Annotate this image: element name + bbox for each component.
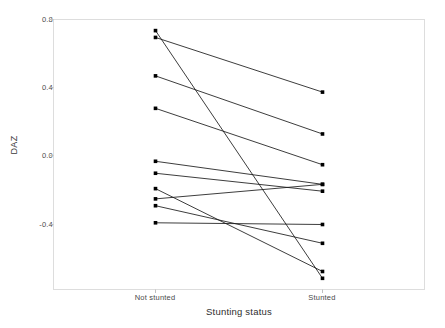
data-point-marker bbox=[321, 270, 325, 274]
data-point-marker bbox=[321, 163, 325, 167]
data-point-marker bbox=[154, 159, 158, 163]
data-point-marker bbox=[154, 204, 158, 208]
data-point-marker bbox=[154, 107, 158, 111]
y-axis-ticks bbox=[49, 20, 54, 225]
data-point-marker bbox=[154, 36, 158, 40]
data-point-marker bbox=[154, 197, 158, 201]
data-point-marker bbox=[321, 189, 325, 193]
data-point-marker bbox=[321, 132, 325, 136]
data-point-marker bbox=[321, 183, 325, 187]
data-point-marker bbox=[321, 277, 325, 281]
x-tick-label-not-stunted: Not stunted bbox=[100, 293, 210, 302]
data-point-marker bbox=[154, 171, 158, 175]
data-point-marker bbox=[154, 187, 158, 191]
chart-figure: DAZ 0.8 0.4 0.0 -0.4 Not stunted Stunted… bbox=[0, 0, 445, 328]
x-tick-label-stunted: Stunted bbox=[267, 293, 377, 302]
data-point-marker bbox=[321, 241, 325, 245]
data-point-marker bbox=[154, 74, 158, 78]
data-point-marker bbox=[154, 221, 158, 225]
data-point-marker bbox=[321, 90, 325, 94]
data-point-marker bbox=[321, 223, 325, 227]
data-point-marker bbox=[154, 29, 158, 33]
plot-area bbox=[0, 0, 445, 328]
x-axis-title: Stunting status bbox=[53, 306, 425, 317]
